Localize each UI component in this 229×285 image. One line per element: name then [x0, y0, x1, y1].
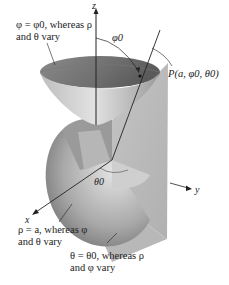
phi0-label: φ0	[112, 32, 123, 43]
sphere-annotation-line2: and θ vary	[18, 236, 62, 247]
plane-annotation-line2: and φ vary	[70, 262, 115, 273]
spherical-coordinates-figure: z x y φ0 θ0 P(a, φ0, θ0) φ = φ0, whereas…	[0, 0, 229, 285]
point-p-marker	[138, 74, 141, 77]
z-axis-label: z	[92, 0, 96, 11]
y-axis-arrow-icon	[186, 186, 192, 192]
plane-annotation-line1: θ = θ0, whereas ρ	[70, 250, 144, 261]
sphere-annotation-line1: ρ = a, whereas φ	[18, 224, 87, 235]
point-p-label: P(a, φ0, θ0)	[168, 68, 219, 79]
cone-annotation-line1: φ = φ0, whereas ρ	[16, 19, 92, 30]
y-axis-label: y	[195, 184, 199, 195]
theta0-label: θ0	[94, 176, 104, 187]
cone-leader-line	[47, 43, 55, 65]
cone-annotation-line2: and θ vary	[16, 31, 60, 42]
x-axis-arrow-icon	[32, 209, 39, 215]
point-leader-line	[152, 48, 172, 66]
y-axis	[170, 183, 188, 188]
